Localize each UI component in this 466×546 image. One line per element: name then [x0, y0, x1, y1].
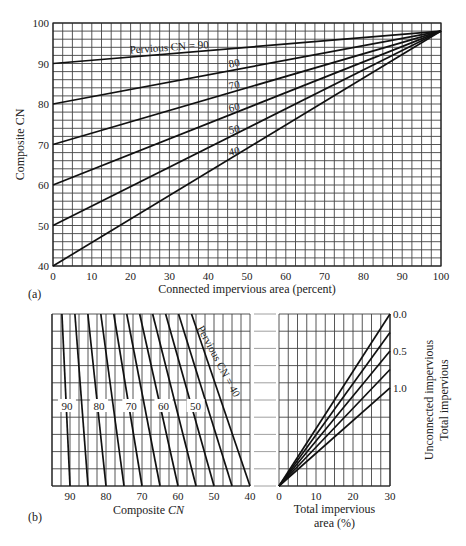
x-tick-label: 50	[242, 270, 254, 282]
x-axis-label: Connected impervious area (percent)	[158, 282, 336, 296]
series-label: 50	[190, 400, 202, 412]
x-tick-label: 30	[164, 270, 176, 282]
x-axis-label-line2: area (%)	[314, 516, 355, 530]
series-label: 40	[227, 144, 241, 158]
x-tick-label: 20	[348, 490, 360, 502]
panel-a: Pervious CN = 90807060504001020304050607…	[13, 17, 450, 301]
ratio-label: 0.5	[393, 345, 407, 357]
x-tick-label: 90	[397, 270, 409, 282]
x-tick-label: 40	[245, 490, 257, 502]
x-tick-label: 70	[319, 270, 331, 282]
y-axis-label: Composite CN	[13, 108, 27, 180]
x-tick-label: 90	[65, 490, 77, 502]
series-label: 70	[126, 400, 138, 412]
x-tick-label: 80	[101, 490, 113, 502]
panel-b-right: 0.00.51.00102030Total imperviousarea (%)…	[276, 308, 451, 530]
panel-label-b: (b)	[28, 510, 42, 524]
figure: Pervious CN = 90807060504001020304050607…	[0, 0, 466, 546]
y-tick-label: 60	[38, 179, 50, 191]
x-tick-label: 80	[358, 270, 370, 282]
right-axis-label-denominator: Total impervious	[437, 359, 451, 441]
x-tick-label: 10	[86, 270, 98, 282]
series-label: 80	[227, 56, 241, 70]
panel-label-a: (a)	[28, 287, 41, 301]
ratio-label: 1.0	[393, 382, 407, 394]
y-tick-label: 90	[38, 58, 50, 70]
y-tick-label: 80	[38, 98, 50, 110]
x-tick-label: 20	[125, 270, 137, 282]
y-tick-label: 50	[38, 220, 50, 232]
rotated-series-label: Pervious CN = 40	[195, 323, 243, 399]
series-label: 60	[158, 400, 170, 412]
series-label: 60	[227, 100, 241, 114]
series-label: 50	[227, 122, 241, 136]
x-tick-label: 0	[276, 490, 282, 502]
x-tick-label: 10	[311, 490, 323, 502]
x-tick-label: 60	[173, 490, 185, 502]
x-axis-label-line1: Total impervious	[294, 502, 376, 516]
x-tick-label: 30	[385, 490, 397, 502]
series-label: 90	[61, 400, 73, 412]
y-tick-label: 40	[38, 260, 50, 272]
y-tick-label: 100	[33, 17, 50, 29]
x-axis-label: Composite CN	[113, 503, 185, 517]
x-tick-label: 60	[280, 270, 292, 282]
x-axis-label-word: Composite	[113, 503, 168, 517]
x-tick-label: 100	[433, 270, 450, 282]
x-axis-label-symbol: CN	[168, 503, 185, 517]
y-tick-label: 70	[38, 139, 50, 151]
ratio-label: 0.0	[393, 308, 407, 320]
x-tick-label: 40	[203, 270, 215, 282]
right-axis-label-numerator: Unconnected impervious	[422, 340, 436, 461]
x-tick-label: 70	[137, 490, 149, 502]
x-tick-label: 50	[209, 490, 221, 502]
series-label: 80	[94, 400, 106, 412]
x-tick-label: 0	[50, 270, 56, 282]
panel-b-left: 9080706050Pervious CN = 40908070605040Co…	[28, 314, 276, 524]
